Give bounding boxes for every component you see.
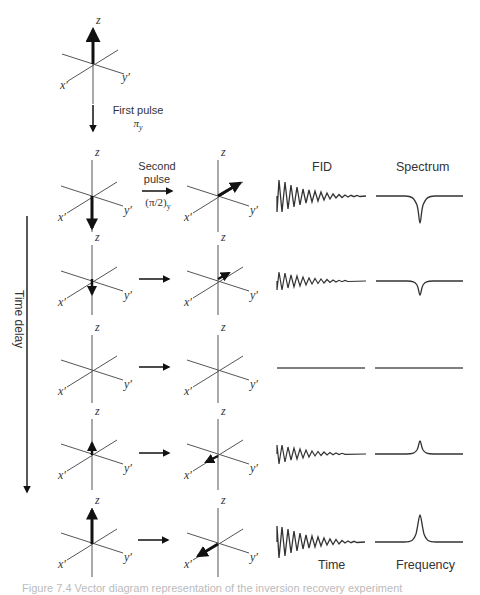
axis-label-x: x′ [184, 295, 192, 310]
row-3 [61, 335, 463, 403]
axis-label-z: z [221, 493, 226, 508]
axis-label-x: x′ [58, 557, 66, 572]
axis-label-z: z [95, 404, 100, 419]
axis-label-x: x′ [184, 384, 192, 399]
first-pulse-text: First pulse [106, 104, 170, 117]
axis-label-z: z [221, 404, 226, 419]
axis-label-x: x′ [58, 384, 66, 399]
axis-label-y: y′ [124, 377, 132, 392]
axis-label-y: y′ [250, 461, 258, 476]
row-4 [61, 419, 463, 490]
axis-label-x: x′ [60, 78, 68, 93]
first-pulse-angle: πy [106, 117, 170, 134]
fid-trace [277, 272, 366, 290]
vector-after [206, 456, 218, 462]
frequency-axis-label: Frequency [396, 558, 455, 572]
axis-label-z: z [96, 13, 101, 28]
axis-label-x: x′ [58, 468, 66, 483]
second-pulse-label: Second pulse [131, 160, 183, 186]
axis-label-z: z [221, 230, 226, 245]
second-pulse-angle: (π/2)y [134, 196, 182, 213]
axes-after [187, 419, 249, 490]
axis-label-y: y′ [124, 461, 132, 476]
spectrum-trace [376, 196, 463, 223]
second-pulse-text-1: Second [131, 160, 183, 173]
vector-after [198, 544, 218, 556]
axes-after [187, 335, 249, 403]
vector-after [218, 273, 229, 279]
first-pulse-label: First pulse πy [106, 104, 170, 134]
time-axis-label: Time [318, 558, 345, 572]
axis-label-z: z [95, 145, 100, 160]
second-pulse-text-2: pulse [131, 173, 183, 186]
fid-trace [277, 180, 366, 212]
axis-label-y: y′ [124, 288, 132, 303]
axes-before [61, 335, 123, 403]
fid-trace [277, 445, 366, 464]
axis-label-y: y′ [250, 550, 258, 565]
axis-label-y: y′ [250, 288, 258, 303]
column-header-fid: FID [312, 160, 332, 174]
axes-after [187, 245, 249, 315]
axis-label-z: z [221, 320, 226, 335]
axis-label-x: x′ [184, 557, 192, 572]
column-header-spectrum: Spectrum [396, 160, 450, 174]
time-delay-label: Time delay [12, 290, 26, 348]
spectrum-trace [375, 515, 463, 542]
spectrum-trace [375, 441, 463, 454]
axis-label-x: x′ [184, 210, 192, 225]
diagram-canvas [0, 0, 480, 595]
axis-label-z: z [95, 320, 100, 335]
axis-label-z: z [95, 230, 100, 245]
axis-label-x: x′ [58, 295, 66, 310]
axis-label-x: x′ [184, 468, 192, 483]
axis-label-z: z [95, 493, 100, 508]
axis-label-y: y′ [250, 203, 258, 218]
axis-label-y: y′ [124, 550, 132, 565]
figure-caption: Figure 7.4 Vector diagram representation… [22, 582, 402, 594]
axis-label-y: y′ [122, 70, 130, 85]
row-2 [61, 245, 463, 315]
axes-after [187, 508, 249, 577]
spectrum-trace [376, 281, 463, 295]
axis-label-y: y′ [250, 377, 258, 392]
axis-label-z: z [221, 145, 226, 160]
fid-trace [277, 526, 365, 558]
axis-label-x: x′ [58, 210, 66, 225]
axis-label-y: y′ [124, 203, 132, 218]
vector-after [218, 183, 240, 196]
